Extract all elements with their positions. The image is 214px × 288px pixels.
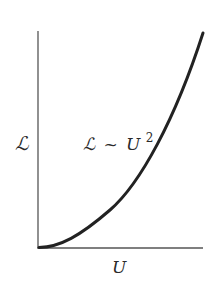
x-axis-label: U [112,257,127,277]
annotation-base: U [126,134,141,154]
annotation-op: ~ [103,134,117,154]
plot-canvas: ℒ ℒ ~ U 2 U [0,0,214,288]
annotation-exponent: 2 [146,131,154,145]
annotation-lhs: ℒ [83,134,96,154]
y-axis-label: ℒ [15,132,30,154]
curve-annotation: ℒ ~ U 2 [83,131,153,154]
